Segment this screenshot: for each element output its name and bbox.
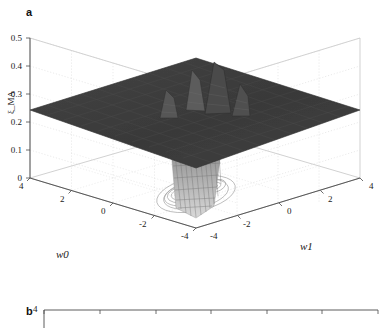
w1-tick-neg4: -4	[210, 231, 218, 241]
chart-panel-b: 4	[0, 300, 390, 328]
panel-b-ytick-4: 4	[33, 304, 38, 314]
z-axis-label: ξ_MA	[6, 91, 16, 114]
ztick-0.4: 0.4	[0, 61, 22, 71]
chart-panel-a: 0 0.1 0.2 0.3 0.4 0.5 ξ_MA 4 2 0 -2 -4 -…	[0, 18, 390, 290]
ztick-0.1: 0.1	[0, 145, 22, 155]
w1-tick-0: 0	[287, 206, 292, 216]
x-axis-name: w0	[56, 248, 69, 260]
w0-tick-4: 4	[19, 181, 24, 191]
w0-tick-neg2: -2	[139, 219, 147, 229]
w0-tick-2: 2	[60, 194, 65, 204]
y-axis-name: w1	[300, 240, 313, 252]
w1-tick-2: 2	[328, 194, 333, 204]
panel-b-axes	[0, 300, 390, 328]
ztick-0.5: 0.5	[0, 33, 22, 43]
w1-tick-neg2: -2	[243, 219, 251, 229]
ztick-0.2: 0.2	[0, 117, 22, 127]
w0-tick-neg4: -4	[181, 231, 189, 241]
panel-label-a: a	[26, 6, 32, 18]
w1-tick-4: 4	[369, 181, 374, 191]
w0-tick-0: 0	[101, 206, 106, 216]
